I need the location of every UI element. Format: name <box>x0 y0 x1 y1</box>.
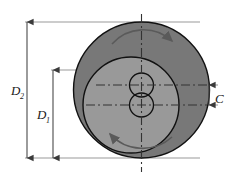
inner-disc <box>83 57 179 153</box>
technical-diagram: D 2 D 1 C <box>0 0 243 177</box>
dimension-d2: D 2 <box>10 22 27 158</box>
dimension-subscript-d1: 1 <box>46 116 50 125</box>
dimension-label-c: C <box>215 91 224 106</box>
dimension-d1: D 1 <box>36 70 53 158</box>
dimension-c: C <box>209 85 224 106</box>
dimension-subscript-d2: 2 <box>20 92 24 101</box>
diagram-canvas: D 2 D 1 C <box>0 0 243 177</box>
